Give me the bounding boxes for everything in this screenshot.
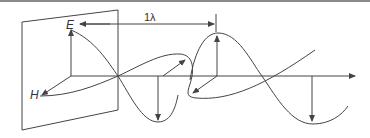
wavelength-label: 1λ — [144, 11, 156, 23]
h-field-wave — [40, 50, 315, 98]
e-field-label: E — [66, 18, 75, 32]
h-field-vector-origin — [42, 76, 71, 95]
h-field-label: H — [30, 88, 39, 102]
h-field-vector-1 — [163, 60, 185, 76]
em-wave-diagram: E H 1λ — [0, 0, 370, 138]
h-field-vector-2 — [193, 76, 217, 93]
